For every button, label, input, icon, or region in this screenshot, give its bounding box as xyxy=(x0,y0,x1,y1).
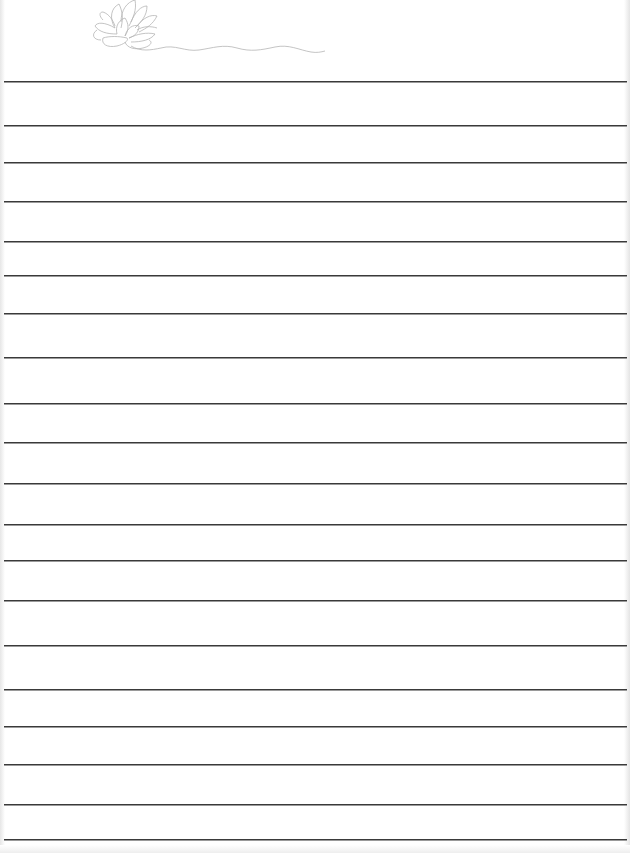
bottom-edge-shadow xyxy=(0,845,630,853)
ruled-line xyxy=(4,483,627,485)
ruled-line xyxy=(4,275,627,277)
ruled-line xyxy=(4,125,627,127)
ruled-line xyxy=(4,600,627,602)
lotus-flower-icon xyxy=(85,0,330,56)
ruled-line xyxy=(4,689,627,691)
ruled-line xyxy=(4,645,627,647)
ruled-line xyxy=(4,560,627,562)
ruled-line xyxy=(4,357,627,359)
ruled-line xyxy=(4,403,627,405)
ruled-line xyxy=(4,804,627,806)
ruled-line xyxy=(4,81,627,83)
ruled-line xyxy=(4,524,627,526)
ruled-line xyxy=(4,839,627,841)
ruled-line xyxy=(4,764,627,766)
ruled-line xyxy=(4,726,627,728)
ruled-line xyxy=(4,162,627,164)
ruled-line xyxy=(4,241,627,243)
ruled-line xyxy=(4,201,627,203)
ruled-line xyxy=(4,442,627,444)
ruled-line xyxy=(4,313,627,315)
notepaper-page xyxy=(0,0,630,853)
